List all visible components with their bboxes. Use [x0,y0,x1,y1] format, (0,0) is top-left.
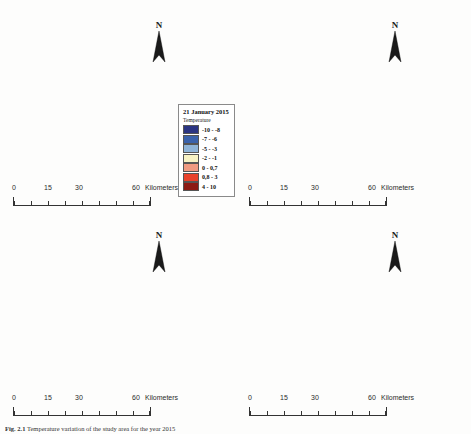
north-arrow-label: N [386,20,404,30]
legend-class-label: 4 - 10 [202,183,216,191]
legend-color-swatch [183,144,199,153]
scale-bar-labels: 0 15 30 60 Kilometers [248,394,398,405]
north-arrow-icon [388,31,402,63]
legend-color-swatch [183,154,199,163]
scale-unit-label: Kilometers [145,394,178,401]
scale-tick-15: 15 [280,394,288,401]
north-arrow-icon [388,241,402,273]
scale-tick-60: 60 [132,394,140,401]
scale-bar-ticks [13,407,151,416]
scale-bar-ticks [249,407,387,416]
legend-color-swatch [183,135,199,144]
figure-caption-label: Fig. 2.1 [5,425,25,432]
north-arrow: N [150,230,168,274]
north-arrow: N [150,20,168,64]
scale-tick-0: 0 [12,184,16,191]
scale-bar-august: 0 15 30 60 Kilometers [12,394,162,420]
legend-january: 21 January 2015 Temperature -10 - -8-7 -… [178,104,235,197]
scale-unit-label: Kilometers [145,184,178,191]
scale-tick-15: 15 [44,184,52,191]
legend-class-label: 0 - 0,7 [202,164,218,172]
map-panel-january: N 0 15 30 60 Kilometers 21 January 2015 … [0,8,235,215]
north-arrow-label: N [386,230,404,240]
scale-unit-label: Kilometers [381,184,414,191]
north-arrow-label: N [150,230,168,240]
scale-bar-may: 0 15 30 60 Kilometers [248,184,398,210]
north-arrow-icon [152,241,166,273]
legend-class-row: 0,8 - 3 [183,173,230,182]
legend-class-label: -10 - -8 [202,126,220,134]
scale-tick-60: 60 [368,394,376,401]
scale-tick-0: 0 [248,184,252,191]
map-panel-november: N 0 15 30 60 Kilometers 3 November 2015 … [236,218,471,425]
map-panel-may: N 0 15 30 60 Kilometers 20 May 2015 Temp… [236,8,471,215]
north-arrow-label: N [150,20,168,30]
scale-tick-15: 15 [280,184,288,191]
north-arrow: N [386,230,404,274]
legend-subtitle: Temperature [183,117,230,124]
figure-caption: Fig. 2.1 Temperature variation of the st… [5,424,465,433]
legend-class-label: -7 - -6 [202,135,217,143]
legend-title: 21 January 2015 [183,108,230,116]
legend-class-label: -2 - -1 [202,154,217,162]
scale-bar-labels: 0 15 30 60 Kilometers [248,184,398,195]
legend-color-swatch [183,182,199,191]
figure-temperature-maps: N 0 15 30 60 Kilometers 21 January 2015 … [0,0,471,434]
legend-color-swatch [183,163,199,172]
legend-class-row: -10 - -8 [183,125,230,134]
legend-class-row: 0 - 0,7 [183,163,230,172]
scale-bar-labels: 0 15 30 60 Kilometers [12,394,162,405]
scale-tick-15: 15 [44,394,52,401]
legend-color-swatch [183,173,199,182]
north-arrow: N [386,20,404,64]
scale-tick-0: 0 [248,394,252,401]
scale-bar-january: 0 15 30 60 Kilometers [12,184,162,210]
north-arrow-icon [152,31,166,63]
scale-bar-ticks [249,197,387,206]
legend-class-row: -7 - -6 [183,135,230,144]
legend-class-row: -5 - -3 [183,144,230,153]
scale-bar-ticks [13,197,151,206]
legend-class-label: -5 - -3 [202,145,217,153]
scale-tick-30: 30 [311,394,319,401]
legend-class-list: -10 - -8-7 - -6-5 - -3-2 - -10 - 0,70,8 … [183,125,230,191]
scale-tick-30: 30 [311,184,319,191]
scale-tick-60: 60 [368,184,376,191]
legend-class-row: 4 - 10 [183,182,230,191]
scale-tick-0: 0 [12,394,16,401]
scale-bar-labels: 0 15 30 60 Kilometers [12,184,162,195]
legend-class-label: 0,8 - 3 [202,173,218,181]
legend-color-swatch [183,125,199,134]
scale-unit-label: Kilometers [381,394,414,401]
scale-bar-november: 0 15 30 60 Kilometers [248,394,398,420]
scale-tick-60: 60 [132,184,140,191]
scale-tick-30: 30 [75,184,83,191]
figure-caption-text: Temperature variation of the study area … [27,425,175,432]
map-panel-august: N 0 15 30 60 Kilometers 14 August 2015 T… [0,218,235,425]
legend-class-row: -2 - -1 [183,154,230,163]
scale-tick-30: 30 [75,394,83,401]
